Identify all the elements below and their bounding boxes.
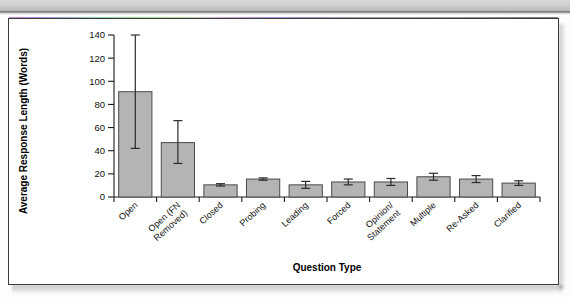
- x-axis-category-labels: OpenOpen (FNRemoved)ClosedProbingLeading…: [117, 200, 523, 243]
- x-category-label-line: Forced: [325, 200, 353, 226]
- x-axis-ticks: [114, 197, 540, 202]
- x-category-label: Probing: [238, 200, 268, 228]
- x-category-label: Forced: [325, 200, 353, 226]
- x-category-label-line: Leading: [280, 200, 311, 229]
- x-category-label: Clarified: [492, 200, 523, 230]
- figure-panel: Average Response Length (Words) 02040608…: [8, 18, 559, 285]
- scanned-page: Average Response Length (Words) 02040608…: [0, 0, 570, 298]
- bar-chart: Average Response Length (Words) 02040608…: [9, 19, 559, 285]
- panel-shadow-right: [559, 24, 566, 289]
- bar: [246, 179, 279, 197]
- x-category-label: Re-Asked: [444, 200, 480, 234]
- bar: [204, 185, 237, 197]
- scan-top-band-shadow: [0, 11, 570, 15]
- x-category-label: Open: [117, 200, 140, 222]
- y-tick-label: 100: [89, 76, 105, 87]
- y-tick-label: 80: [94, 99, 105, 110]
- x-category-label: Closed: [197, 200, 225, 226]
- x-category-label: Opinion/Statement: [358, 200, 403, 243]
- x-category-label-line: Open: [117, 200, 140, 222]
- y-tick-label: 40: [94, 145, 105, 156]
- x-category-label: Leading: [280, 200, 311, 229]
- y-tick-label: 140: [89, 29, 105, 40]
- y-axis-ticks: 020406080100120140: [89, 29, 114, 202]
- y-tick-label: 120: [89, 53, 105, 64]
- x-category-label: Open (FNRemoved): [145, 200, 190, 243]
- x-category-label-line: Clarified: [492, 200, 523, 230]
- x-category-label-line: Closed: [197, 200, 225, 226]
- bars-group: [119, 35, 536, 197]
- x-category-label: Multiple: [408, 200, 438, 228]
- y-tick-label: 20: [94, 168, 105, 179]
- y-tick-label: 0: [100, 191, 105, 202]
- y-axis-title: Average Response Length (Words): [18, 48, 29, 214]
- panel-shadow-bottom: [12, 285, 563, 294]
- x-category-label-line: Multiple: [408, 200, 438, 228]
- x-axis-title: Question Type: [293, 262, 362, 273]
- x-category-label-line: Probing: [238, 200, 268, 228]
- x-category-label-line: Re-Asked: [444, 200, 480, 234]
- y-tick-label: 60: [94, 122, 105, 133]
- chart-svg: Average Response Length (Words) 02040608…: [9, 19, 559, 285]
